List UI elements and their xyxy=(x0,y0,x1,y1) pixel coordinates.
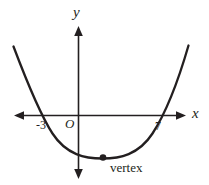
x-axis-right-arrowhead xyxy=(176,111,186,120)
y-axis-label: y xyxy=(73,5,80,20)
y-axis-top-arrowhead xyxy=(74,26,83,36)
y-axis-bottom-arrowhead xyxy=(74,169,83,179)
x-axis-label: x xyxy=(192,106,199,121)
graph-canvas xyxy=(0,0,209,185)
vertex-point-marker xyxy=(100,154,107,161)
vertex-label: vertex xyxy=(110,161,142,174)
parabola-curve-group xyxy=(14,46,189,159)
parabola-figure: y x O -3 7 vertex xyxy=(0,0,209,185)
origin-label: O xyxy=(65,117,74,130)
parabola-curve xyxy=(14,46,189,159)
x-tick-label-seven: 7 xyxy=(155,120,161,132)
x-tick-label-negative-three: -3 xyxy=(36,119,46,131)
x-axis-left-arrowhead xyxy=(14,111,24,120)
